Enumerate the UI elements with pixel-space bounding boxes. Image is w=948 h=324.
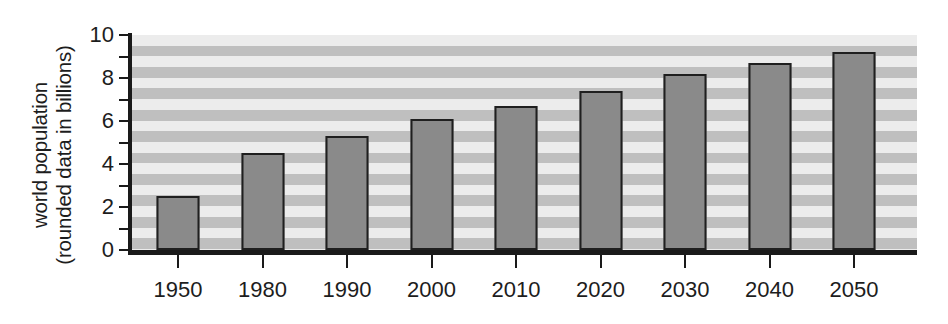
x-axis-tick-label: 2030 <box>661 277 710 303</box>
bar <box>241 153 284 250</box>
bar <box>495 106 538 250</box>
x-axis-tick-label: 2010 <box>492 277 541 303</box>
x-axis-tick <box>346 255 348 268</box>
x-axis-tick <box>515 255 517 268</box>
y-axis-tick <box>119 142 128 144</box>
y-axis-tick-label: 4 <box>102 151 114 177</box>
x-axis-tick-label: 1980 <box>238 277 287 303</box>
bar <box>157 196 200 250</box>
x-axis-tick <box>684 255 686 268</box>
bar <box>326 136 369 250</box>
x-axis-tick-label: 2000 <box>407 277 456 303</box>
x-axis-tick <box>769 255 771 268</box>
y-axis-title-line2: (rounded data in billions) <box>52 45 76 264</box>
x-axis-tick <box>853 255 855 268</box>
y-axis-tick <box>119 77 128 79</box>
bar <box>833 52 876 250</box>
y-axis-tick <box>119 56 128 58</box>
bar <box>579 91 622 250</box>
x-axis-tick-label: 2020 <box>576 277 625 303</box>
bar-chart: world population (rounded data in billio… <box>0 0 948 324</box>
x-axis-tick-label: 2040 <box>745 277 794 303</box>
y-axis-tick-label: 2 <box>102 194 114 220</box>
x-axis-tick <box>177 255 179 268</box>
bar <box>410 119 453 250</box>
x-axis-line <box>128 250 917 255</box>
y-axis-line <box>128 33 132 252</box>
y-axis-tick <box>119 99 128 101</box>
y-axis-tick <box>119 228 128 230</box>
y-axis-tick-label: 6 <box>102 108 114 134</box>
x-axis-tick-label: 2050 <box>830 277 879 303</box>
plot-area: 0246810 19501980199020002010202020302040… <box>132 35 917 250</box>
x-axis-tick-label: 1950 <box>154 277 203 303</box>
x-axis-tick <box>600 255 602 268</box>
y-axis-tick <box>119 206 128 208</box>
y-axis-tick <box>119 34 128 36</box>
x-axis-tick <box>431 255 433 268</box>
bar <box>664 74 707 250</box>
y-axis-tick <box>119 185 128 187</box>
y-axis-title-line1: world population <box>28 82 52 228</box>
y-axis-tick-label: 8 <box>102 65 114 91</box>
y-axis-tick-label: 10 <box>90 22 114 48</box>
y-axis-title: world population (rounded data in billio… <box>24 40 80 270</box>
x-axis-tick <box>262 255 264 268</box>
y-axis-tick <box>119 163 128 165</box>
y-axis-tick <box>119 249 128 251</box>
bar <box>748 63 791 250</box>
y-axis-tick <box>119 120 128 122</box>
y-axis-tick-label: 0 <box>102 237 114 263</box>
x-axis-tick-label: 1990 <box>323 277 372 303</box>
